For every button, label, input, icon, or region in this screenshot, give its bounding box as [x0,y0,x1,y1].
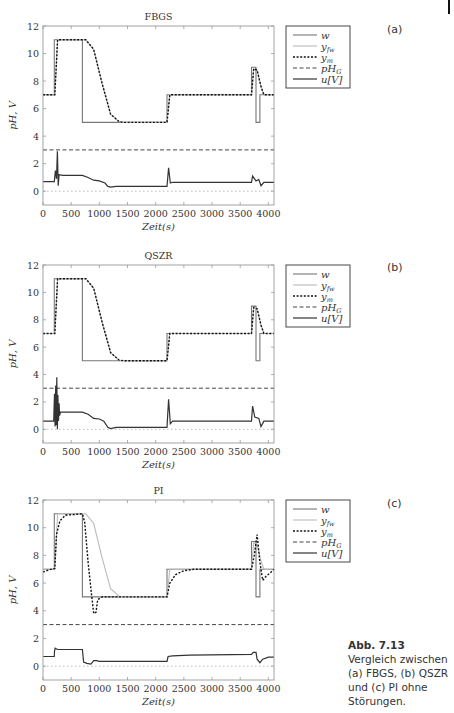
legend: wyfwympHGu[V] [286,500,350,562]
x-tick-label: 1500 [115,683,139,694]
y-tick-label: 2 [33,633,39,644]
x-tick-label: 1000 [87,683,111,694]
panel-tag: (c) [387,497,402,510]
x-tick-label: 500 [62,683,80,694]
caption-text: Vergleich zwischen (a) FBGS, (b) QSZR un… [348,653,448,707]
chart-title: PI [153,485,163,496]
y-tick-label: 10 [27,522,39,533]
series-y-m [43,514,274,614]
series-w [43,514,274,597]
y-tick-label: 12 [27,495,39,506]
series-y-fw [43,514,274,597]
x-tick-label: 2000 [144,683,168,694]
legend-entry: w [321,504,330,515]
figure-caption: Abb. 7.13 Vergleich zwischen (a) FBGS, (… [348,638,454,708]
x-tick-label: 0 [40,683,46,694]
plot-svg: 0500100015002000250030003500400002468101… [0,0,454,713]
y-axis-label: pH, V [7,574,18,604]
caption-label: Abb. 7.13 [348,639,405,651]
x-tick-label: 4000 [256,683,280,694]
plot-frame [43,500,274,680]
series-u-v- [43,648,274,664]
chart-panel-c: 0500100015002000250030003500400002468101… [0,0,454,713]
legend-entry: u[V] [321,548,343,559]
y-tick-label: 4 [33,605,39,616]
x-tick-label: 3000 [200,683,224,694]
y-tick-label: 8 [33,550,39,561]
y-tick-label: 0 [33,661,39,672]
plot-area [43,514,274,666]
x-tick-label: 2500 [172,683,196,694]
x-tick-label: 3500 [228,683,252,694]
y-tick-label: 6 [33,578,39,589]
x-axis-label: Zeit(s) [141,696,175,707]
